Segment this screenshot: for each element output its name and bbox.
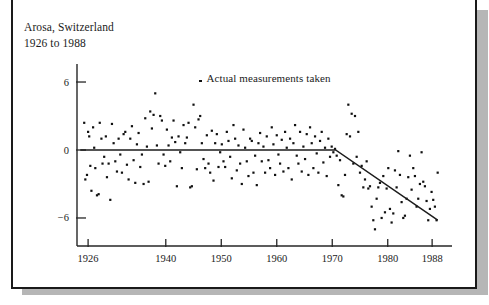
scatter-point bbox=[271, 126, 273, 128]
scatter-point bbox=[217, 166, 219, 168]
scatter-point bbox=[284, 131, 286, 133]
x-tick-label: 1970 bbox=[322, 253, 343, 264]
y-tick-label: 6 bbox=[64, 77, 69, 88]
scatter-point bbox=[100, 138, 102, 140]
scatter-point bbox=[317, 172, 319, 174]
scatter-point bbox=[137, 132, 139, 134]
scatter-point bbox=[83, 122, 85, 124]
scatter-point bbox=[389, 208, 391, 210]
scatter-point bbox=[114, 160, 116, 162]
scatter-point bbox=[364, 178, 366, 180]
scatter-point bbox=[357, 131, 359, 133]
scatter-point bbox=[299, 131, 301, 133]
scatter-point bbox=[136, 143, 138, 145]
scatter-point bbox=[196, 168, 198, 170]
scatter-point bbox=[103, 156, 105, 158]
scatter-point bbox=[202, 158, 204, 160]
scatter-point bbox=[121, 172, 123, 174]
scatter-point bbox=[367, 187, 369, 189]
scatter-point bbox=[314, 135, 316, 137]
scatter-point bbox=[134, 182, 136, 184]
scatter-point bbox=[336, 155, 338, 157]
scatter-point bbox=[234, 138, 236, 140]
scatter-point bbox=[425, 200, 427, 202]
scatter-point bbox=[169, 160, 171, 162]
scatter-point bbox=[246, 160, 248, 162]
scatter-point bbox=[154, 92, 156, 94]
scatter-point bbox=[247, 175, 249, 177]
scatter-point bbox=[171, 136, 173, 138]
scatter-point bbox=[409, 155, 411, 157]
x-tick-label: 1988 bbox=[422, 253, 443, 264]
scatter-point bbox=[434, 206, 436, 208]
scatter-point bbox=[194, 126, 196, 128]
scatter-point bbox=[149, 110, 151, 112]
scatter-point bbox=[362, 186, 364, 188]
scatter-point bbox=[142, 183, 144, 185]
scatter-point bbox=[119, 153, 121, 155]
scatter-point bbox=[157, 162, 159, 164]
scatter-point bbox=[392, 212, 394, 214]
scatter-point bbox=[321, 131, 323, 133]
x-tick-label: 1926 bbox=[78, 253, 99, 264]
scatter-point bbox=[254, 155, 256, 157]
scatter-point bbox=[209, 172, 211, 174]
scatter-points bbox=[83, 92, 439, 230]
scatter-point bbox=[111, 123, 113, 125]
scatter-point bbox=[297, 162, 299, 164]
scatter-point bbox=[304, 158, 306, 160]
scatter-point bbox=[419, 183, 421, 185]
scatter-point bbox=[316, 152, 318, 154]
scatter-point bbox=[227, 140, 229, 142]
scatter-point bbox=[259, 132, 261, 134]
scatter-point bbox=[161, 119, 163, 121]
scatter-point bbox=[296, 155, 298, 157]
scatter-point bbox=[176, 185, 178, 187]
scatter-point bbox=[164, 165, 166, 167]
scatter-point bbox=[128, 178, 130, 180]
y-tick-label: −6 bbox=[58, 212, 69, 223]
scatter-point bbox=[204, 167, 206, 169]
scatter-point bbox=[147, 181, 149, 183]
scatter-point bbox=[391, 221, 393, 223]
scatter-point bbox=[124, 131, 126, 133]
scatter-point bbox=[199, 115, 201, 117]
scatter-point bbox=[384, 211, 386, 213]
scatter-point bbox=[252, 172, 254, 174]
scatter-point bbox=[94, 167, 96, 169]
scatter-point bbox=[93, 147, 95, 149]
scatter-point bbox=[229, 156, 231, 158]
scatter-point bbox=[374, 228, 376, 230]
scatter-point bbox=[89, 165, 91, 167]
scatter-point bbox=[307, 174, 309, 176]
chart-axes bbox=[77, 64, 452, 246]
y-tick-label: 0 bbox=[64, 145, 69, 156]
scatter-point bbox=[219, 151, 221, 153]
scatter-point bbox=[274, 174, 276, 176]
scatter-point bbox=[186, 136, 188, 138]
scatter-point bbox=[427, 219, 429, 221]
x-tick-label: 1960 bbox=[266, 253, 287, 264]
scatter-point bbox=[162, 153, 164, 155]
scatter-point bbox=[132, 159, 134, 161]
ozone-scatter-chart: 60−6 1926194019501960197019801988 bbox=[0, 0, 489, 305]
scatter-point bbox=[221, 143, 223, 145]
scatter-point bbox=[376, 198, 378, 200]
scatter-point bbox=[339, 159, 341, 161]
scatter-point bbox=[106, 176, 108, 178]
scatter-point bbox=[88, 135, 90, 137]
scatter-point bbox=[242, 129, 244, 131]
scatter-point bbox=[277, 153, 279, 155]
scatter-point bbox=[216, 133, 218, 135]
scatter-point bbox=[116, 170, 118, 172]
scatter-point bbox=[301, 170, 303, 172]
scatter-point bbox=[286, 147, 288, 149]
scatter-point bbox=[237, 144, 239, 146]
scatter-point bbox=[123, 133, 125, 135]
scatter-point bbox=[113, 142, 115, 144]
scatter-point bbox=[399, 174, 401, 176]
scatter-point bbox=[324, 147, 326, 149]
scatter-point bbox=[344, 174, 346, 176]
scatter-point bbox=[126, 164, 128, 166]
scatter-point bbox=[276, 134, 278, 136]
